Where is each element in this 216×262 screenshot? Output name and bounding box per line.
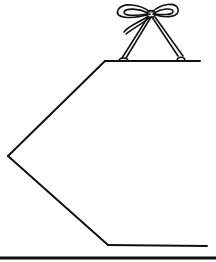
ribbon-strand-right-b bbox=[155, 17, 183, 56]
tag-bottom-edge bbox=[108, 245, 207, 246]
tag-upper-diagonal bbox=[8, 61, 105, 156]
gift-tag-illustration bbox=[0, 0, 216, 262]
ribbon-bow-icon bbox=[117, 4, 185, 61]
ribbon-strand-right-a bbox=[152, 17, 178, 56]
bow-left-loop-inner bbox=[124, 9, 148, 15]
bow-right-loop-inner bbox=[154, 9, 173, 15]
tag-lower-diagonal bbox=[8, 156, 108, 245]
ribbon-strand-left-b bbox=[126, 17, 151, 58]
tag-outline bbox=[8, 61, 207, 246]
